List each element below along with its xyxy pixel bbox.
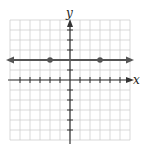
axes [8,19,134,144]
x-axis-label: x [133,73,140,87]
y-axis-label: y [65,6,73,20]
data-point [47,57,53,63]
data-point [97,57,103,63]
coordinate-plane: x y [0,0,142,151]
